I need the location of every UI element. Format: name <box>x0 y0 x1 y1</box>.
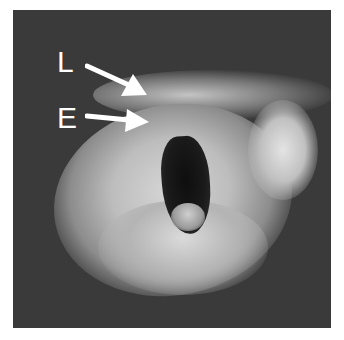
arrow-l-icon <box>85 60 151 100</box>
airway-floor <box>171 203 205 231</box>
arrow-e-icon <box>85 106 151 136</box>
label-l: L <box>57 47 74 77</box>
endoscopic-photo: L E <box>13 10 331 328</box>
tissue-bulge-right <box>248 100 318 200</box>
label-e: E <box>57 103 77 133</box>
